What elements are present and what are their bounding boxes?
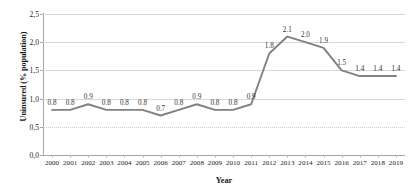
line-chart: Uninsured (% population) 0,00,51,01,52,0… bbox=[0, 0, 415, 193]
data-point-label: 0.9 bbox=[239, 93, 263, 101]
data-point-label: 1.4 bbox=[384, 65, 408, 73]
data-point-label: 1.8 bbox=[257, 42, 281, 50]
x-axis-title: Year bbox=[43, 176, 405, 185]
data-point-label: 1.9 bbox=[312, 37, 336, 45]
